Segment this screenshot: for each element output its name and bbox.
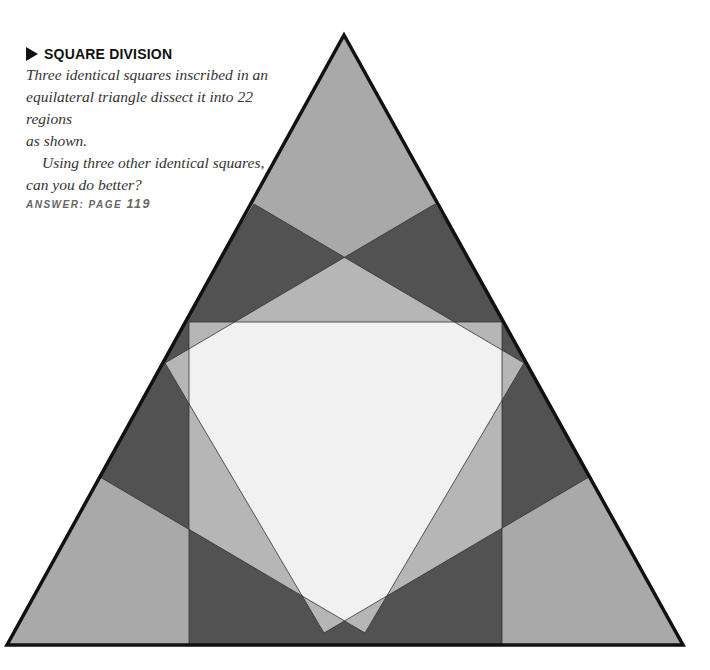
triangle-square-figure <box>0 0 710 670</box>
